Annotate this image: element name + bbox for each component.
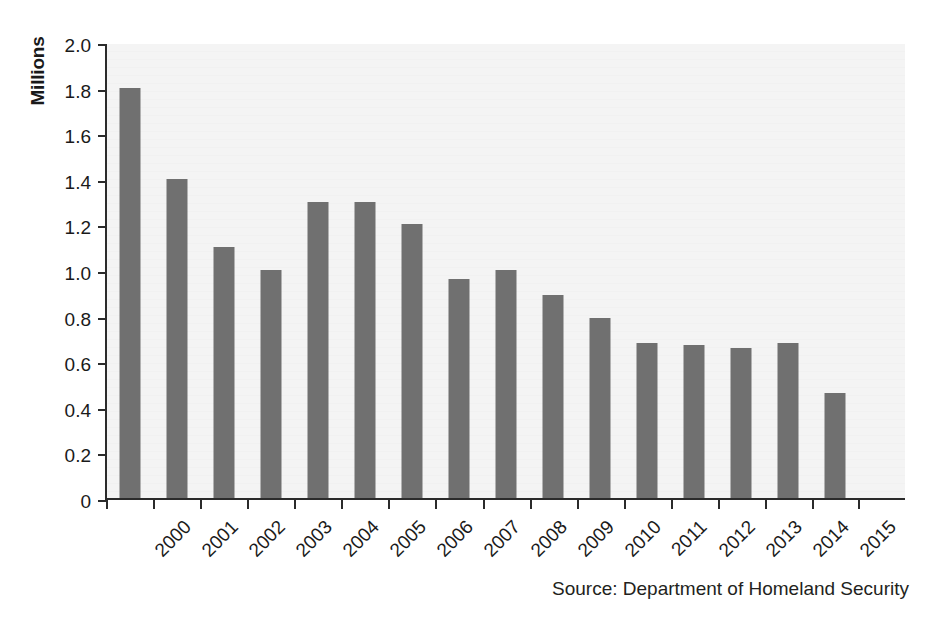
x-axis-tick-label: 2014 (809, 516, 854, 561)
y-axis-tick-label: 1.2 (65, 217, 91, 239)
bar (778, 343, 799, 498)
y-axis-tick: 1.2 (98, 226, 107, 228)
bar-series (107, 44, 905, 498)
bar (543, 295, 564, 498)
x-axis-tick-label: 2000 (150, 516, 195, 561)
x-axis-tick (530, 498, 532, 509)
x-axis-tick-label: 2008 (526, 516, 571, 561)
x-axis-tick-label: 2004 (338, 516, 383, 561)
x-axis-tick (106, 498, 108, 509)
y-axis-tick-label: 1.6 (65, 126, 91, 148)
bar-chart-figure: Millions 00.20.40.60.81.01.21.41.61.82.0… (0, 0, 931, 617)
y-axis-tick: 0.6 (98, 363, 107, 365)
bar (119, 88, 140, 498)
y-axis-tick-label: 1.8 (65, 81, 91, 103)
bar (590, 318, 611, 498)
x-axis-tick (577, 498, 579, 509)
bar (731, 348, 752, 498)
y-axis-tick-label: 0 (80, 491, 91, 513)
x-axis-tick-label: 2013 (762, 516, 807, 561)
y-axis-tick: 1.4 (98, 181, 107, 183)
x-axis-tick (858, 498, 860, 509)
x-axis-tick (153, 498, 155, 509)
y-axis-tick: 0.2 (98, 454, 107, 456)
y-axis-tick: 1.6 (98, 135, 107, 137)
x-axis-tick (200, 498, 202, 509)
y-axis-tick-label: 0.4 (65, 400, 91, 422)
x-axis-tick (812, 498, 814, 509)
bar (166, 179, 187, 498)
x-axis-tick-label: 2011 (667, 516, 711, 560)
bar (449, 279, 470, 498)
x-axis-tick-label: 2003 (291, 516, 336, 561)
y-axis-tick-label: 2.0 (65, 35, 91, 57)
x-axis-tick (671, 498, 673, 509)
x-axis-tick (624, 498, 626, 509)
x-axis-tick-label: 2006 (432, 516, 477, 561)
y-axis-tick: 1.0 (98, 272, 107, 274)
y-axis-tick: 0.8 (98, 318, 107, 320)
y-axis-tick-label: 0.6 (65, 354, 91, 376)
x-axis-tick-label: 2010 (621, 516, 666, 561)
y-axis-tick-label: 1.4 (65, 172, 91, 194)
x-axis-tick-label: 2009 (573, 516, 618, 561)
y-axis-tick-label: 0.8 (65, 309, 91, 331)
x-axis-tick (483, 498, 485, 509)
bar (684, 345, 705, 498)
plot-area: 00.20.40.60.81.01.21.41.61.82.0 20002001… (105, 44, 905, 500)
x-axis-tick-label: 2012 (715, 516, 760, 561)
bar (637, 343, 658, 498)
x-axis-tick (718, 498, 720, 509)
x-axis-tick (765, 498, 767, 509)
x-axis-tick-label: 2002 (244, 516, 289, 561)
bar (213, 247, 234, 498)
x-axis-tick-label: 2001 (197, 516, 242, 561)
y-axis-tick: 1.8 (98, 90, 107, 92)
bar (401, 224, 422, 498)
y-axis-tick: 0.4 (98, 409, 107, 411)
x-axis-tick (247, 498, 249, 509)
x-axis-tick (294, 498, 296, 509)
source-note: Source: Department of Homeland Security (552, 578, 909, 600)
y-axis-tick: 2.0 (98, 44, 107, 46)
x-axis-tick (341, 498, 343, 509)
x-axis-tick (435, 498, 437, 509)
bar (354, 202, 375, 498)
x-axis-tick-label: 2005 (385, 516, 430, 561)
bar (496, 270, 517, 498)
bar (825, 393, 846, 498)
x-axis-tick-label: 2007 (479, 516, 524, 561)
y-axis-tick-label: 0.2 (65, 445, 91, 467)
x-axis-tick (388, 498, 390, 509)
bar (307, 202, 328, 498)
y-axis-tick-label: 1.0 (65, 263, 91, 285)
y-axis-title: Millions (27, 11, 49, 131)
x-axis-tick-label: 2015 (856, 516, 901, 561)
bar (260, 270, 281, 498)
